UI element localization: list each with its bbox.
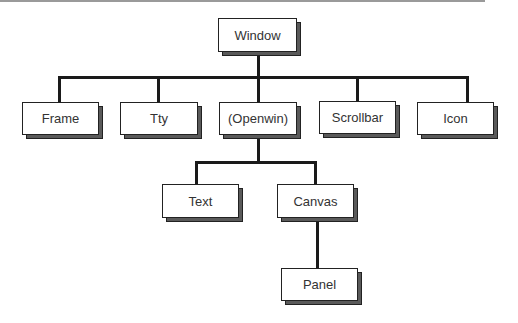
connector-window-down <box>257 55 260 78</box>
top-rule <box>0 0 485 2</box>
node-scrollbar: Scrollbar <box>319 101 396 134</box>
node-window: Window <box>218 18 297 52</box>
connector-canvas <box>314 161 317 184</box>
node-text: Text <box>162 184 239 218</box>
node-canvas: Canvas <box>277 184 354 218</box>
connector-level1-bar <box>58 76 469 79</box>
node-icon-label: Icon <box>417 102 494 135</box>
connector-tty <box>157 76 160 102</box>
connector-frame <box>58 76 61 102</box>
connector-level2-bar <box>195 161 317 164</box>
connector-openwin-down <box>257 138 260 163</box>
node-tty-label: Tty <box>120 102 198 135</box>
connector-scrollbar <box>356 76 359 102</box>
node-frame: Frame <box>22 102 99 135</box>
node-panel: Panel <box>281 268 358 301</box>
node-openwin: (Openwin) <box>219 102 297 135</box>
connector-panel <box>316 221 319 268</box>
node-openwin-label: (Openwin) <box>219 102 297 135</box>
connector-text <box>195 161 198 184</box>
node-tty: Tty <box>120 102 198 135</box>
node-scrollbar-label: Scrollbar <box>319 101 396 134</box>
node-canvas-label: Canvas <box>277 184 354 218</box>
connector-openwin <box>257 76 260 102</box>
node-window-label: Window <box>218 18 297 52</box>
node-icon: Icon <box>417 102 494 135</box>
node-panel-label: Panel <box>281 268 358 301</box>
node-frame-label: Frame <box>22 102 99 135</box>
connector-icon <box>466 76 469 102</box>
node-text-label: Text <box>162 184 239 218</box>
